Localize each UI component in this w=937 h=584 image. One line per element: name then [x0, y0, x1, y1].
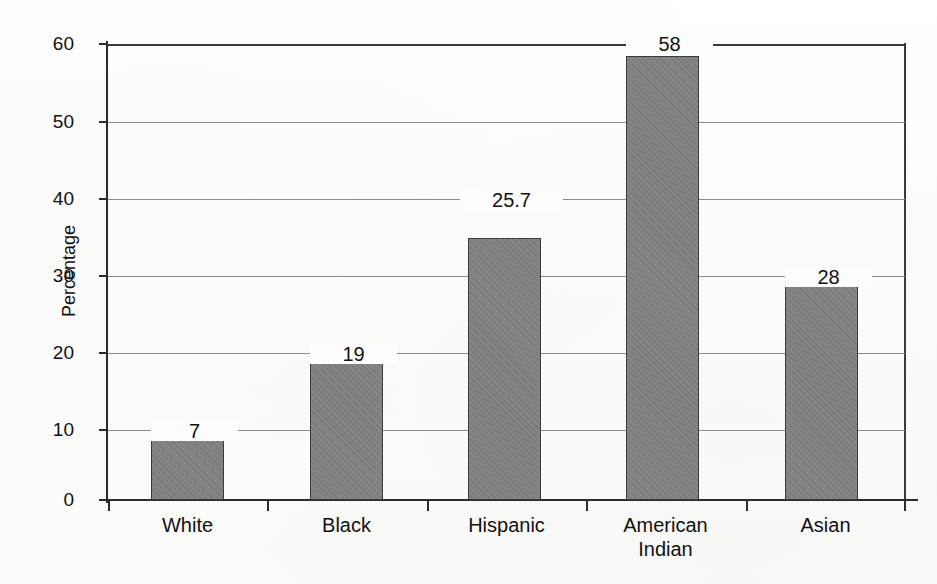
y-tick-label: 40	[22, 189, 74, 208]
y-tick-20: 20	[22, 343, 74, 362]
bar-value-american-indian: 58	[626, 34, 713, 54]
y-tick-label: 20	[22, 343, 74, 362]
y-tick-30: 30	[22, 266, 74, 285]
bar-american-indian[interactable]	[626, 56, 699, 500]
x-tick-mark	[108, 500, 110, 511]
x-category-black: Black	[267, 513, 426, 537]
y-tick-50: 50	[22, 112, 74, 131]
x-category-label-line: Asian	[746, 513, 905, 537]
bar-chart: Percentage 60 50 40 30 20 10 0	[0, 0, 937, 584]
x-category-label-line: Hispanic	[427, 513, 586, 537]
bar-value-hispanic: 25.7	[460, 190, 563, 210]
x-tick-mark	[427, 500, 429, 511]
y-tick-10: 10	[22, 420, 74, 439]
x-category-hispanic: Hispanic	[427, 513, 586, 537]
x-category-american-indian: American Indian	[586, 513, 745, 561]
x-category-label-line: Black	[267, 513, 426, 537]
x-tick-mark	[267, 500, 269, 511]
y-tick-60: 60	[22, 34, 74, 53]
x-category-asian: Asian	[746, 513, 905, 537]
y-tick-label: 10	[22, 420, 74, 439]
x-tick-mark	[586, 500, 588, 511]
x-category-label-line: American	[586, 513, 745, 537]
x-category-white: White	[108, 513, 267, 537]
y-tick-label: 30	[22, 266, 74, 285]
bar-value-white: 7	[151, 421, 238, 441]
x-category-label-line: White	[108, 513, 267, 537]
y-tick-label: 60	[22, 34, 74, 53]
bar-hispanic[interactable]	[468, 238, 541, 500]
bar-white[interactable]	[151, 440, 224, 500]
gridline-50	[108, 122, 905, 123]
gridline-60	[108, 44, 905, 46]
bar-black[interactable]	[310, 353, 383, 500]
y-tick-label: 0	[22, 490, 74, 509]
x-category-label-line: Indian	[586, 537, 745, 561]
bar-value-asian: 28	[785, 267, 872, 287]
x-tick-mark	[904, 500, 906, 511]
bar-value-black: 19	[310, 344, 397, 364]
plot-area: 7 19 25.7 58 28	[108, 44, 905, 500]
y-tick-label: 50	[22, 112, 74, 131]
bar-asian[interactable]	[785, 282, 858, 500]
y-tick-0: 0	[22, 490, 74, 509]
y-tick-40: 40	[22, 189, 74, 208]
x-tick-mark	[746, 500, 748, 511]
